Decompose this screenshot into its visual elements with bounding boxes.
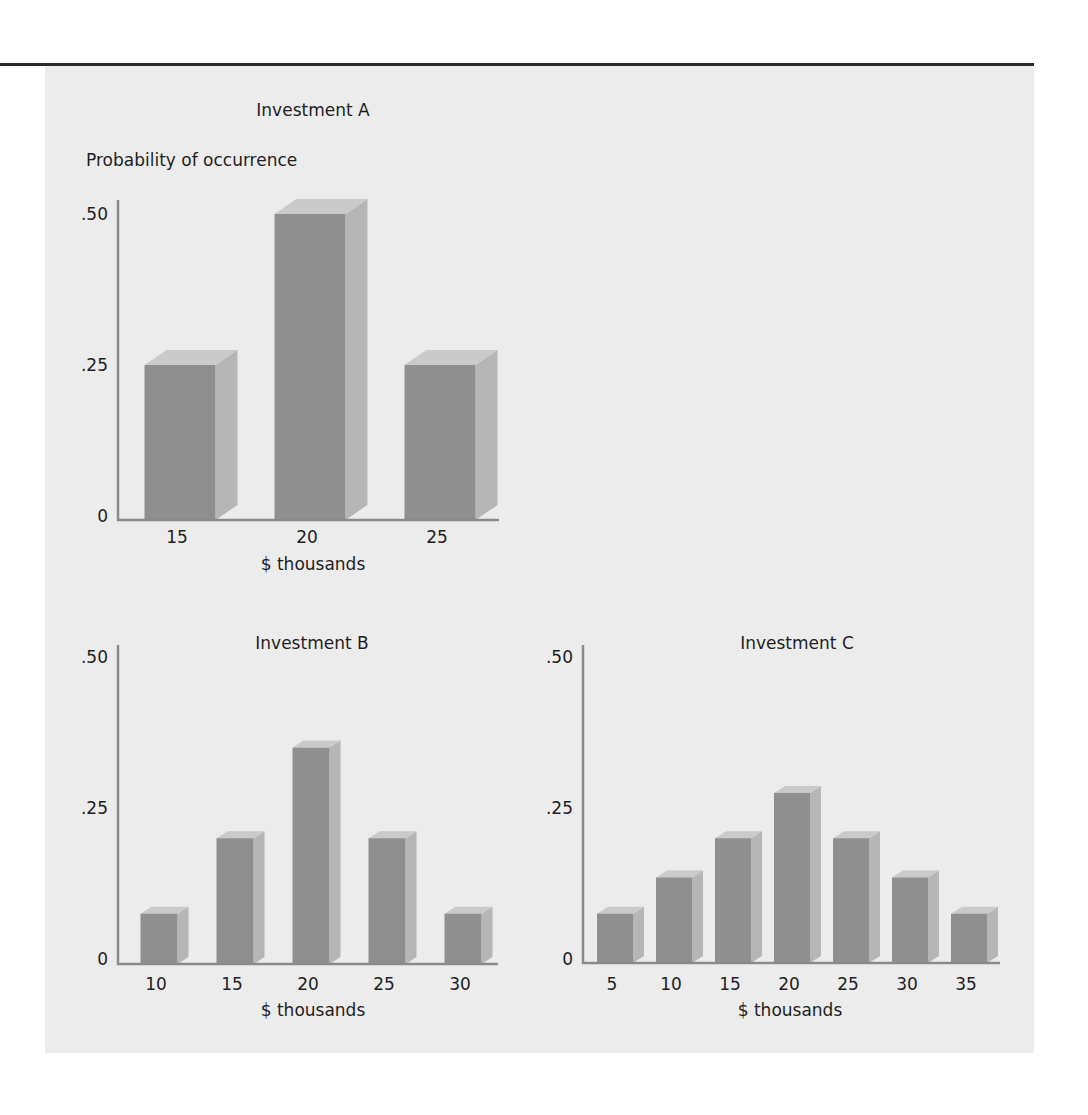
x-tick-label: 20: [778, 974, 800, 994]
x-tick-labels: 5101520253035: [607, 974, 977, 994]
bar-group: [597, 786, 998, 963]
bar-side-face: [869, 831, 880, 963]
bar-side-face: [633, 907, 644, 963]
chart-title: Investment A: [256, 100, 370, 120]
x-tick-label: 10: [145, 974, 167, 994]
bar-20: [774, 786, 821, 963]
bar-front-face: [892, 877, 928, 963]
x-tick-labels: 152025: [166, 527, 448, 547]
bar-front-face: [141, 914, 178, 964]
x-axis-label: $ thousands: [261, 554, 366, 574]
x-tick-label: 5: [607, 974, 618, 994]
bar-25: [833, 831, 880, 963]
y-tick-label-mid: .25: [81, 355, 108, 375]
bar-25: [405, 350, 498, 520]
bar-side-face: [178, 907, 189, 964]
x-tick-label: 10: [660, 974, 682, 994]
bar-5: [597, 907, 644, 963]
bar-front-face: [833, 838, 869, 963]
x-tick-label: 15: [221, 974, 243, 994]
bar-front-face: [656, 877, 692, 963]
bar-group: [141, 741, 493, 964]
bar-side-face: [987, 907, 998, 963]
bar-35: [951, 907, 998, 963]
bar-side-face: [254, 831, 265, 964]
bar-30: [445, 907, 493, 964]
bar-10: [656, 870, 703, 963]
y-tick-label-zero: 0: [562, 949, 573, 969]
x-tick-label: 25: [373, 974, 395, 994]
bar-group: [145, 199, 498, 520]
bar-side-face: [751, 831, 762, 963]
bar-front-face: [369, 838, 406, 964]
bar-25: [369, 831, 417, 964]
x-tick-label: 30: [449, 974, 471, 994]
x-tick-label: 25: [837, 974, 859, 994]
bar-15: [715, 831, 762, 963]
bar-front-face: [774, 793, 810, 963]
x-tick-labels: 1015202530: [145, 974, 471, 994]
bar-side-face: [476, 350, 498, 520]
bar-side-face: [330, 741, 341, 964]
bar-front-face: [715, 838, 751, 963]
x-axis-label: $ thousands: [738, 1000, 843, 1020]
bar-side-face: [216, 350, 238, 520]
x-tick-label: 35: [955, 974, 977, 994]
bar-front-face: [217, 838, 254, 964]
x-tick-label: 15: [719, 974, 741, 994]
chart-title: Investment B: [255, 633, 368, 653]
x-tick-label: 20: [297, 974, 319, 994]
bar-20: [275, 199, 368, 520]
x-tick-label: 15: [166, 527, 188, 547]
figure-canvas: Probability of occurrence Investment A .…: [0, 0, 1088, 1115]
bar-15: [145, 350, 238, 520]
chart-investment-a: Investment A .50 .25 0 152025 $ thousand…: [81, 100, 499, 574]
bar-front-face: [951, 914, 987, 963]
bar-front-face: [275, 214, 346, 520]
y-tick-label-top: .50: [81, 647, 108, 667]
bar-30: [892, 870, 939, 963]
y-axis-label: Probability of occurrence: [86, 150, 297, 170]
bar-20: [293, 741, 341, 964]
y-tick-label-zero: 0: [97, 949, 108, 969]
bar-side-face: [406, 831, 417, 964]
y-tick-label-mid: .25: [546, 798, 573, 818]
bar-front-face: [293, 748, 330, 964]
bar-side-face: [482, 907, 493, 964]
bar-side-face: [928, 870, 939, 963]
bar-10: [141, 907, 189, 964]
bar-side-face: [346, 199, 368, 520]
chart-investment-b: Investment B .50 .25 0 1015202530 $ thou…: [81, 633, 498, 1020]
x-axis-label: $ thousands: [261, 1000, 366, 1020]
chart-investment-c: Investment C .50 .25 0 5101520253035 $ t…: [546, 633, 1000, 1020]
x-tick-label: 25: [426, 527, 448, 547]
bar-front-face: [145, 365, 216, 520]
bar-15: [217, 831, 265, 964]
x-tick-label: 30: [896, 974, 918, 994]
chart-title: Investment C: [740, 633, 854, 653]
y-tick-label-top: .50: [81, 204, 108, 224]
x-tick-label: 20: [296, 527, 318, 547]
bar-side-face: [810, 786, 821, 963]
bar-front-face: [405, 365, 476, 520]
y-tick-label-mid: .25: [81, 798, 108, 818]
y-tick-label-zero: 0: [97, 506, 108, 526]
bar-front-face: [445, 914, 482, 964]
bar-side-face: [692, 870, 703, 963]
bar-front-face: [597, 914, 633, 963]
y-tick-label-top: .50: [546, 647, 573, 667]
